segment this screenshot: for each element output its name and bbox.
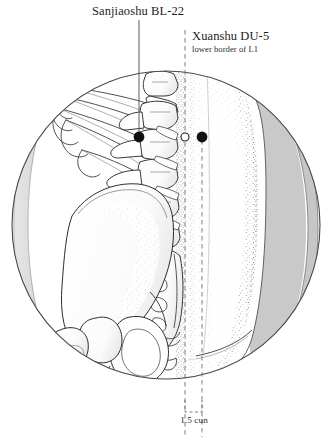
vignette-contents [0,0,332,443]
du5-point-dot[interactable] [197,132,208,143]
cun-measure-bracket [185,400,202,412]
bl22-point-dot[interactable] [134,132,145,143]
ilium [62,184,174,398]
bl22-label: Sanjiaoshu BL-22 [92,4,184,19]
cun-measurement-value: 1.5 cun [180,415,208,425]
du5-label: Xuanshu DU-5 [192,29,269,44]
anatomical-illustration [0,0,332,443]
du5-sublabel: lower border of L1 [192,44,258,54]
midline-marker-dot[interactable] [181,133,189,141]
cun-measurement-label: 1.5 cun [0,415,332,425]
figure-canvas: Sanjiaoshu BL-22 Xuanshu DU-5 lower bord… [0,0,332,443]
